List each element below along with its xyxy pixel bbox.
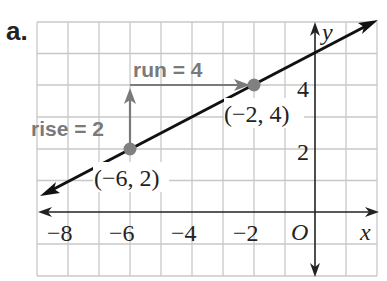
point-marker <box>124 143 137 156</box>
x-tick-label: −6 <box>109 220 135 246</box>
coordinate-graph: x y O −8 −6 −4 −2 2 4 rise = 2 run = 4 (… <box>0 0 387 281</box>
x-axis-label: x <box>359 219 371 245</box>
rise-arrow <box>124 88 136 149</box>
rise-label: rise = 2 <box>31 117 104 140</box>
grid <box>37 22 377 276</box>
x-tick-label: −4 <box>171 220 197 246</box>
origin-label: O <box>291 219 308 245</box>
run-label: run = 4 <box>133 58 203 81</box>
point-label: (−2, 4) <box>224 101 290 127</box>
x-tick-label: −2 <box>233 220 259 246</box>
graph-line <box>40 20 378 196</box>
x-tick-label: −8 <box>47 220 73 246</box>
point-marker <box>248 79 261 92</box>
point-label: (−6, 2) <box>94 165 160 191</box>
y-axis-label: y <box>320 19 333 45</box>
x-axis <box>38 207 379 217</box>
y-tick-label: 2 <box>297 139 309 165</box>
